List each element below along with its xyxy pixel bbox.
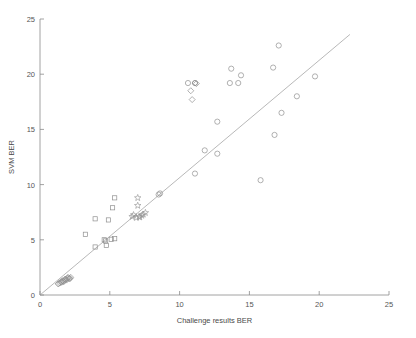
- plot-area: 05101520250510152025Challenge results BE…: [7, 15, 393, 325]
- y-axis-title: SVM BER: [7, 140, 16, 174]
- x-tick-label: 5: [108, 300, 112, 309]
- data-point-circle: [271, 65, 276, 70]
- y-tick-label: 20: [27, 70, 35, 79]
- x-tick-label: 15: [245, 300, 253, 309]
- x-tick-label: 0: [38, 300, 42, 309]
- square-group: [83, 196, 117, 249]
- data-point-square: [113, 196, 117, 200]
- data-point-circle: [272, 132, 277, 137]
- diamond-group: [55, 80, 199, 287]
- y-tick-label: 15: [27, 125, 35, 134]
- data-point-circle: [202, 148, 207, 153]
- chart-canvas: 05101520250510152025Challenge results BE…: [0, 0, 416, 338]
- data-point-square: [83, 232, 87, 236]
- y-tick-label: 5: [31, 236, 35, 245]
- data-point-square: [93, 217, 97, 221]
- scatter-plot-figure: 05101520250510152025Challenge results BE…: [0, 0, 416, 338]
- data-point-diamond: [188, 88, 194, 94]
- data-point-circle: [258, 178, 263, 183]
- data-point-square: [110, 206, 114, 210]
- data-point-circle: [156, 192, 161, 197]
- data-point-circle: [215, 119, 220, 124]
- data-point-circle: [157, 191, 162, 196]
- data-point-circle: [294, 94, 299, 99]
- data-point-circle: [227, 80, 232, 85]
- y-tick-label: 10: [27, 181, 35, 190]
- x-axis-title: Challenge results BER: [177, 316, 253, 325]
- identity-reference-line: [41, 34, 350, 294]
- x-tick-label: 10: [175, 300, 183, 309]
- data-point-circle: [215, 151, 220, 156]
- data-point-circle: [279, 110, 284, 115]
- data-point-circle: [192, 171, 197, 176]
- data-point-star: [134, 194, 140, 200]
- data-point-circle: [238, 73, 243, 78]
- data-point-circle: [312, 74, 317, 79]
- data-point-diamond: [189, 97, 195, 103]
- y-tick-label: 0: [31, 291, 35, 300]
- circle-group: [156, 43, 318, 197]
- data-point-circle: [185, 80, 190, 85]
- data-point-circle: [236, 80, 241, 85]
- x-tick-label: 25: [385, 300, 393, 309]
- star-group: [129, 194, 149, 220]
- x-tick-label: 20: [315, 300, 323, 309]
- data-point-star: [134, 202, 140, 208]
- y-tick-label: 25: [27, 15, 35, 24]
- data-point-square: [106, 218, 110, 222]
- data-point-square: [104, 243, 108, 247]
- data-point-circle: [229, 66, 234, 71]
- data-point-circle: [276, 43, 281, 48]
